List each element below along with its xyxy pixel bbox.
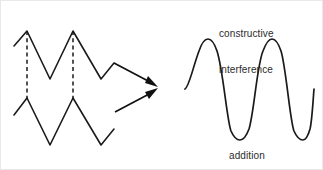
arrow-head-lower bbox=[145, 88, 158, 99]
label-constructive-interference: constructive interference bbox=[219, 4, 274, 100]
label-constructive-line2: interference bbox=[219, 64, 274, 76]
label-addition: addition bbox=[229, 150, 265, 162]
input-wave-bottom bbox=[14, 98, 114, 145]
interference-figure: constructive interference addition bbox=[0, 0, 323, 170]
arrow-head-upper bbox=[145, 76, 158, 87]
diagram-canvas bbox=[1, 1, 323, 170]
label-constructive-line1: constructive bbox=[219, 28, 274, 40]
arrow-from-bottom-wave bbox=[115, 88, 158, 112]
arrow-from-top-wave bbox=[114, 63, 158, 87]
input-wave-top bbox=[14, 31, 114, 79]
